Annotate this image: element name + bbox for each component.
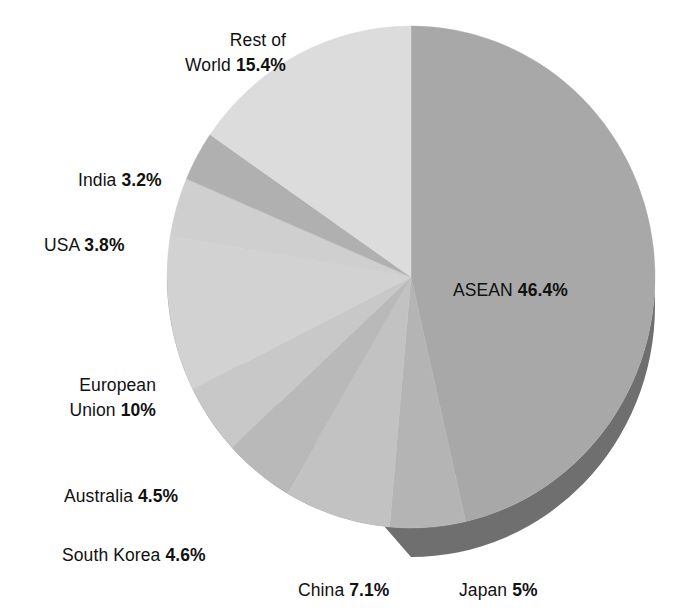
- slice-label-usa-name: USA: [44, 235, 79, 255]
- slice-value-australia: 4.5%: [138, 486, 178, 506]
- slice-label-india: India 3.2%: [78, 168, 162, 193]
- pie-chart-graphic: [0, 0, 682, 616]
- slice-label-india-name: India: [78, 170, 116, 190]
- slice-label-european-union-name: Union: [69, 400, 115, 420]
- slice-label-japan-name: Japan: [459, 580, 507, 600]
- slice-label-asean: ASEAN 46.4%: [453, 278, 568, 303]
- slice-value-south-korea: 4.6%: [165, 545, 205, 565]
- pie-chart-page: Rest ofWorld 15.4% India 3.2% USA 3.8% E…: [0, 0, 682, 616]
- slice-value-asean: 46.4%: [518, 280, 568, 300]
- slice-label-usa: USA 3.8%: [44, 233, 125, 258]
- slice-label-china: China 7.1%: [298, 578, 390, 603]
- slice-label-australia: Australia 4.5%: [64, 484, 178, 509]
- slice-value-china: 7.1%: [349, 580, 389, 600]
- slice-label-european-union: EuropeanUnion 10%: [30, 373, 156, 423]
- slice-label-european-union-line1: European: [79, 375, 156, 395]
- pie-top-face: [167, 26, 655, 528]
- slice-label-south-korea-name: South Korea: [62, 545, 160, 565]
- slice-value-usa: 3.8%: [84, 235, 124, 255]
- slice-label-rest-of-world: Rest ofWorld 15.4%: [146, 28, 286, 78]
- slice-value-japan: 5%: [512, 580, 538, 600]
- slice-label-australia-name: Australia: [64, 486, 133, 506]
- slice-value-european-union: 10%: [121, 400, 156, 420]
- slice-value-india: 3.2%: [121, 170, 161, 190]
- slice-label-rest-of-world-line1: Rest of: [230, 30, 286, 50]
- slice-label-rest-of-world-name: World: [185, 55, 231, 75]
- slice-value-rest-of-world: 15.4%: [236, 55, 286, 75]
- slice-label-south-korea: South Korea 4.6%: [62, 543, 206, 568]
- slice-label-china-name: China: [298, 580, 344, 600]
- slice-label-asean-name: ASEAN: [453, 280, 513, 300]
- slice-label-japan: Japan 5%: [459, 578, 538, 603]
